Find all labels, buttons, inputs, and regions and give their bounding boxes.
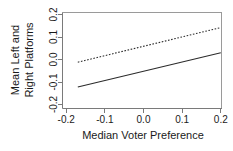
y-tick-label-0: 0.2 (48, 7, 59, 21)
y-tick-label-3: -0.1 (48, 73, 59, 91)
x-tick-label-3: 0.1 (175, 114, 189, 125)
line-chart: 0.2 0.1 0.0 -0.1 -0.2 -0.2 -0.1 0.0 0.1 … (0, 0, 233, 151)
series-left-platform-line (78, 53, 221, 87)
series-group (78, 28, 221, 87)
x-tick-label-1: -0.1 (96, 114, 114, 125)
y-axis-title-line-2: Right Platforms (23, 22, 35, 98)
y-tick-label-4: -0.2 (48, 95, 59, 113)
x-tick-label-4: 0.2 (214, 114, 228, 125)
y-axis-title-line-1: Mean Left and (9, 25, 21, 95)
y-tick-label-2: 0.0 (48, 52, 59, 66)
series-right-platform-line (78, 28, 221, 63)
x-axis-title: Median Voter Preference (82, 129, 204, 141)
plot-frame (63, 13, 222, 109)
x-tick-label-2: 0.0 (137, 114, 151, 125)
chart-figure: 0.2 0.1 0.0 -0.1 -0.2 -0.2 -0.1 0.0 0.1 … (0, 0, 233, 151)
x-tick-label-0: -0.2 (58, 114, 76, 125)
y-tick-label-1: 0.1 (48, 30, 59, 44)
